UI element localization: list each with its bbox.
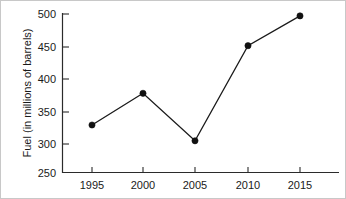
data-point-2015 <box>297 13 303 19</box>
line-chart: 500 450 400 350 300 250 1995 2000 2005 2… <box>1 1 346 199</box>
y-tick-label-300: 300 <box>38 138 56 150</box>
axis-spines <box>63 13 340 173</box>
series-line-fuel <box>92 16 300 141</box>
y-axis-title: Fuel (in millions of barrels) <box>21 29 33 158</box>
data-point-2005 <box>192 138 198 144</box>
x-tick-label-1995: 1995 <box>80 179 104 191</box>
y-tick-label-250: 250 <box>38 167 56 179</box>
x-tick-label-2005: 2005 <box>183 179 207 191</box>
x-tick-label-2000: 2000 <box>131 179 155 191</box>
x-tick-label-2010: 2010 <box>236 179 260 191</box>
chart-figure: 500 450 400 350 300 250 1995 2000 2005 2… <box>0 0 346 199</box>
y-tick-label-400: 400 <box>38 73 56 85</box>
x-tick-label-2015: 2015 <box>288 179 312 191</box>
x-tick-marks <box>92 167 300 173</box>
y-tick-label-450: 450 <box>38 41 56 53</box>
y-tick-label-500: 500 <box>38 8 56 20</box>
y-tick-marks <box>63 14 70 144</box>
data-point-2000 <box>140 90 146 96</box>
y-tick-label-350: 350 <box>38 106 56 118</box>
data-point-1995 <box>89 122 95 128</box>
data-point-2010 <box>245 43 251 49</box>
series-fuel <box>89 13 303 144</box>
